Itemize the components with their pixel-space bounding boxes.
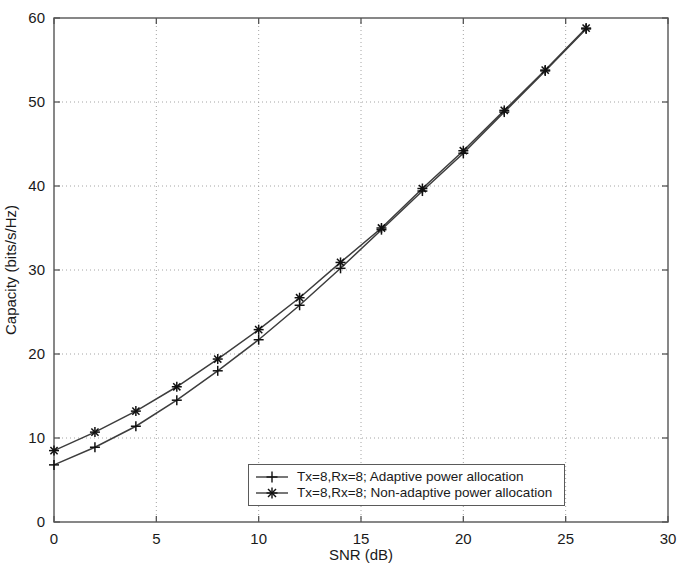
legend: Tx=8,Rx=8; Adaptive power allocation Tx=… (248, 464, 565, 506)
x-tick-label: 20 (455, 530, 472, 547)
x-tick-label: 30 (660, 530, 677, 547)
plus-marker-icon (255, 470, 289, 484)
plus-marker (131, 421, 141, 431)
star-marker (581, 23, 591, 33)
axis-titles: SNR (dB)Capacity (bits/s/Hz) (2, 205, 393, 563)
legend-item-label: Tx=8,Rx=8; Non-adaptive power allocation (297, 485, 552, 501)
star-marker (90, 427, 100, 437)
y-tick-label: 0 (37, 513, 45, 530)
plus-marker (49, 460, 59, 470)
y-tick-label: 10 (28, 429, 45, 446)
star-marker-icon (255, 486, 289, 500)
star-marker (499, 105, 509, 115)
series-line (54, 29, 586, 465)
x-axis-title: SNR (dB) (329, 546, 393, 563)
x-tick-label: 10 (250, 530, 267, 547)
star-marker (254, 325, 264, 335)
star-marker (336, 257, 346, 267)
data-series (49, 23, 591, 470)
x-tick-label: 5 (152, 530, 160, 547)
star-marker (49, 446, 59, 456)
y-axis-title: Capacity (bits/s/Hz) (2, 205, 19, 335)
x-tick-label: 25 (557, 530, 574, 547)
star-marker (540, 65, 550, 75)
legend-item: Tx=8,Rx=8; Adaptive power allocation (255, 469, 554, 485)
y-tick-label: 40 (28, 177, 45, 194)
star-marker (131, 406, 141, 416)
grid-lines (54, 18, 668, 522)
legend-item: Tx=8,Rx=8; Non-adaptive power allocation (255, 485, 554, 501)
star-marker (417, 184, 427, 194)
y-tick-label: 20 (28, 345, 45, 362)
capacity-vs-snr-chart: 0510152025300102030405060 SNR (dB)Capaci… (0, 0, 686, 567)
star-marker (376, 223, 386, 233)
star-marker (458, 146, 468, 156)
plus-marker (172, 395, 182, 405)
x-tick-label: 15 (353, 530, 370, 547)
series-line (54, 28, 586, 451)
x-tick-label: 0 (50, 530, 58, 547)
legend-item-label: Tx=8,Rx=8; Adaptive power allocation (297, 469, 524, 485)
y-tick-label: 60 (28, 9, 45, 26)
plus-marker (90, 442, 100, 452)
y-tick-label: 30 (28, 261, 45, 278)
y-tick-label: 50 (28, 93, 45, 110)
star-marker (295, 293, 305, 303)
star-marker (213, 354, 223, 364)
star-marker (172, 382, 182, 392)
